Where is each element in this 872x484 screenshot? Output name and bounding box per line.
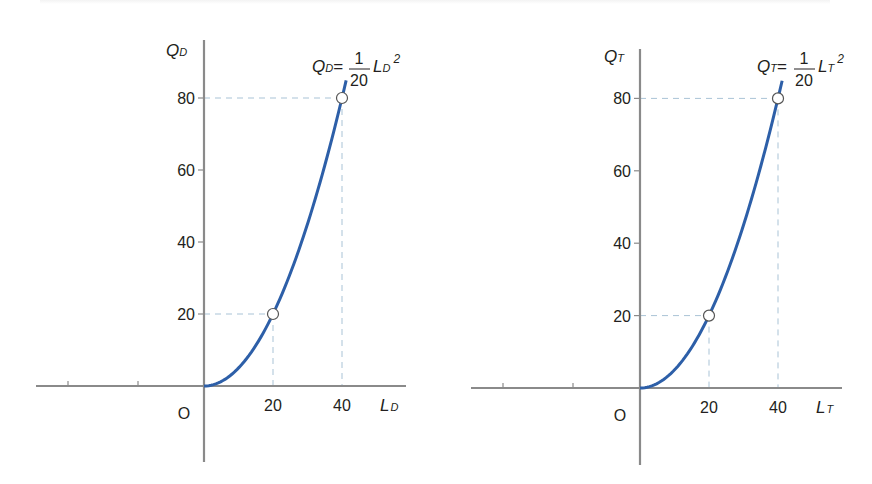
y-tick-label: 80	[177, 90, 195, 107]
equation-exponent: 2	[836, 52, 844, 66]
equation-lhs: QD=	[312, 57, 343, 76]
data-point-marker	[773, 93, 784, 104]
x-tick-label: 40	[333, 397, 351, 414]
equation-rhs-subscript: D	[382, 62, 390, 74]
equation-lhs-var: Q	[757, 57, 770, 76]
equation-rhs: LD2	[373, 52, 400, 76]
production-curve	[640, 81, 782, 388]
chart-panel-1: 204060802040OLDQDQD=120LD2	[36, 40, 406, 462]
equation-rhs: LT2	[818, 52, 844, 76]
y-axis-label-subscript: T	[617, 52, 625, 64]
production-function-charts: 204060802040OLDQDQD=120LD2204060802040OL…	[0, 0, 872, 484]
equation-numerator: 1	[355, 50, 364, 67]
equation-numerator: 1	[800, 50, 809, 67]
y-axis-label-var: Q	[166, 41, 179, 60]
y-axis-label-var: Q	[604, 47, 617, 66]
y-tick-label: 80	[613, 90, 631, 107]
x-axis-label-var: L	[380, 396, 389, 415]
x-axis-label-var: L	[816, 398, 825, 417]
production-curve	[204, 80, 346, 386]
equation-rhs-subscript: T	[827, 62, 835, 74]
equation-equals: =	[333, 57, 343, 76]
x-axis-label-subscript: T	[826, 403, 834, 415]
y-tick-label: 40	[613, 235, 631, 252]
y-axis-label-subscript: D	[179, 46, 187, 58]
x-axis-label-subscript: D	[390, 401, 398, 413]
equation-equals: =	[777, 57, 787, 76]
equation-denominator: 20	[795, 72, 813, 89]
y-tick-label: 20	[613, 308, 631, 325]
x-tick-label: 20	[264, 397, 282, 414]
y-axis-label: QT	[604, 47, 625, 66]
equation-lhs-subscript: D	[325, 62, 333, 74]
equation-rhs-var: L	[818, 57, 827, 76]
origin-label: O	[178, 405, 190, 422]
equation-exponent: 2	[392, 52, 400, 66]
equation-rhs-var: L	[373, 57, 382, 76]
equation-lhs-var: Q	[312, 57, 325, 76]
y-tick-label: 40	[177, 234, 195, 251]
x-tick-label: 20	[700, 399, 718, 416]
origin-label: O	[614, 407, 626, 424]
y-axis-label: QD	[166, 41, 187, 60]
x-tick-label: 40	[769, 399, 787, 416]
y-tick-label: 60	[177, 162, 195, 179]
equation-label: QD=120LD2	[312, 50, 400, 89]
top-edge-shade	[40, 0, 830, 4]
data-point-marker	[704, 310, 715, 321]
chart-panel-2: 204060802040OLTQTQT=120LT2	[471, 47, 844, 465]
y-tick-label: 60	[613, 163, 631, 180]
data-point-marker	[268, 309, 279, 320]
equation-lhs: QT=	[757, 57, 787, 76]
data-point-marker	[337, 93, 348, 104]
x-axis-label: LT	[816, 398, 834, 417]
figure: 204060802040OLDQDQD=120LD2204060802040OL…	[0, 0, 872, 484]
x-axis-label: LD	[380, 396, 398, 415]
equation-label: QT=120LT2	[757, 50, 844, 89]
equation-denominator: 20	[350, 72, 368, 89]
y-tick-label: 20	[177, 306, 195, 323]
